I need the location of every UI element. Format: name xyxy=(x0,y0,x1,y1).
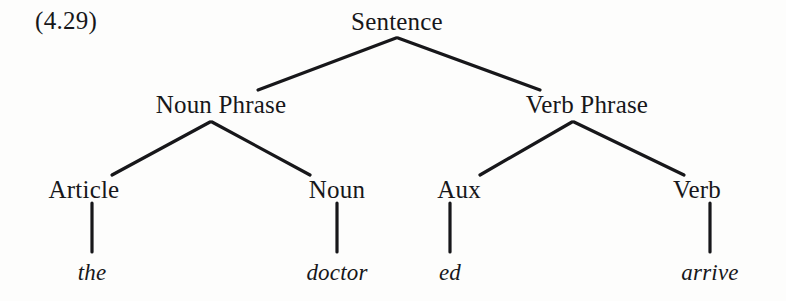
tree-branches xyxy=(0,0,786,301)
tree-node-sentence: Sentence xyxy=(351,9,443,34)
tree-node-verb-phrase: Verb Phrase xyxy=(526,92,648,117)
tree-node-noun: Noun xyxy=(309,177,365,202)
tree-edge-verb-phrase-to-verb xyxy=(574,122,684,175)
parse-tree-figure: (4.29) SentenceNoun PhraseVerb PhraseArt… xyxy=(0,0,786,301)
tree-edge-noun-phrase-to-noun xyxy=(212,122,310,175)
tree-node-noun-phrase: Noun Phrase xyxy=(156,92,287,117)
tree-edge-sentence-to-verb-phrase xyxy=(398,38,540,90)
tree-node-doctor: doctor xyxy=(306,261,367,284)
tree-node-arrive: arrive xyxy=(681,261,738,284)
tree-node-article: Article xyxy=(49,177,120,202)
tree-edge-sentence-to-noun-phrase xyxy=(258,38,396,90)
tree-node-aux: Aux xyxy=(437,177,481,202)
tree-node-the: the xyxy=(78,261,107,284)
tree-edge-verb-phrase-to-aux xyxy=(480,122,572,175)
tree-node-ed: ed xyxy=(439,261,461,284)
tree-node-verb: Verb xyxy=(673,177,721,202)
tree-edge-noun-phrase-to-article xyxy=(112,122,210,175)
